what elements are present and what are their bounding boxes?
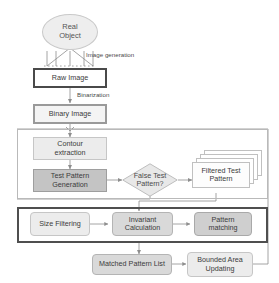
node-bounded-area-updating[interactable]: Bounded Area Updating — [187, 252, 253, 277]
filtered-test-pattern-label-line2: Pattern — [209, 175, 232, 183]
invariant-calculation-label-line2: Calculation — [125, 224, 161, 232]
matched-pattern-list-label: Matched Pattern List — [99, 260, 165, 268]
node-raw-image[interactable]: Raw Image — [33, 68, 107, 88]
image-generation-text: Image generation — [86, 51, 134, 58]
node-size-filtering[interactable]: Size Filtering — [30, 212, 90, 236]
node-real-object[interactable]: Real Object — [42, 14, 98, 50]
binary-image-label: Binary Image — [49, 110, 91, 118]
edge-label-binarization: Binarization — [77, 91, 109, 98]
contour-extraction-label-line2: extraction — [54, 149, 85, 157]
node-matched-pattern-list[interactable]: Matched Pattern List — [92, 254, 172, 275]
edge-label-image-generation: Image generation — [86, 51, 134, 58]
node-invariant-calculation[interactable]: Invariant Calculation — [112, 212, 173, 236]
raw-image-label: Raw Image — [52, 74, 88, 82]
real-object-label-line2: Object — [59, 32, 81, 41]
binarization-text: Binarization — [77, 91, 109, 98]
node-false-test-pattern-decision[interactable]: False Test Pattern? — [122, 163, 178, 197]
node-test-pattern-generation[interactable]: Test Pattern Generation — [33, 169, 107, 192]
node-pattern-matching[interactable]: Pattern matching — [194, 212, 252, 236]
node-filtered-test-pattern[interactable]: Filtered Test Pattern — [192, 150, 264, 193]
node-binary-image[interactable]: Binary Image — [33, 104, 107, 124]
test-pattern-generation-label-line2: Generation — [52, 181, 88, 189]
bounded-area-updating-label-line2: Updating — [206, 265, 235, 273]
edge-fan-a — [47, 48, 70, 66]
pattern-matching-label-line2: matching — [208, 224, 237, 232]
size-filtering-label: Size Filtering — [39, 220, 81, 228]
node-contour-extraction[interactable]: Contour extraction — [33, 137, 107, 160]
flowchart-canvas: Real Object Raw Image Binary Image Conto… — [0, 0, 279, 283]
stack-sheet-front: Filtered Test Pattern — [192, 162, 250, 188]
diamond-shape — [122, 163, 178, 197]
